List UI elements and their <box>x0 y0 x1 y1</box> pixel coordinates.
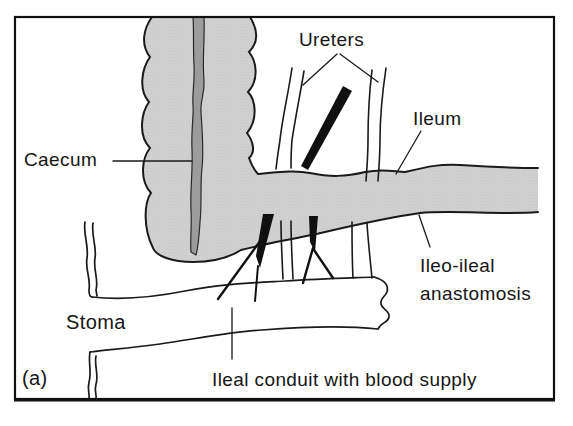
label-ureters: Ureters <box>299 29 364 51</box>
caption-ileal-conduit: Ileal conduit with blood supply <box>212 369 477 391</box>
blood-vessel-main <box>301 86 352 170</box>
stoma-cut-edge-lower <box>88 352 90 399</box>
diagram-canvas <box>0 0 573 426</box>
label-anastomosis-line2: anastomosis <box>420 280 570 308</box>
stoma-cut-edge-upper <box>85 222 92 297</box>
ureter-right <box>366 68 386 181</box>
ureter-left <box>276 68 304 169</box>
label-ileum: Ileum <box>413 108 461 130</box>
label-ileo-ileal-anastomosis: Ileo-ileal anastomosis <box>420 252 570 308</box>
pointer-line-ileum <box>396 131 421 174</box>
panel-letter: (a) <box>22 367 48 390</box>
stoma-cut-edge-upper-inner <box>93 223 97 296</box>
label-stoma: Stoma <box>66 311 126 334</box>
pointer-line-ureter-right <box>340 54 378 82</box>
pointer-line-ureter-left <box>303 54 337 85</box>
ureter-right-below <box>352 222 372 278</box>
stoma-cut-edge-lower-inner <box>95 356 97 399</box>
label-anastomosis-line1: Ileo-ileal <box>420 252 570 280</box>
anatomy-figure: Ureters Ileum Caecum Ileo-ileal anastomo… <box>0 0 573 426</box>
pointer-line-anastomosis <box>419 215 430 247</box>
label-caecum: Caecum <box>24 149 97 171</box>
